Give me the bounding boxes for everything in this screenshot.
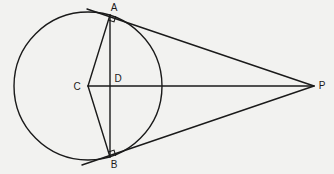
label-point-c: C [73, 82, 80, 92]
label-point-d: D [114, 74, 121, 84]
label-point-a: A [111, 3, 118, 13]
diagram-drawing [0, 0, 334, 174]
geometry-diagram: A B C D P [0, 0, 334, 174]
label-point-p: P [319, 81, 326, 91]
label-point-b: B [111, 160, 118, 170]
segment-ca [88, 15, 110, 86]
tangent-pb [82, 86, 314, 165]
segment-cb [88, 86, 110, 157]
